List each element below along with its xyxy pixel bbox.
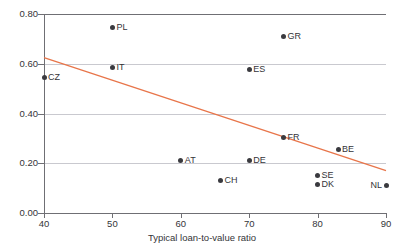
y-tick-mark xyxy=(38,64,44,65)
data-point-fr[interactable] xyxy=(281,135,286,140)
x-axis-line xyxy=(44,213,386,214)
x-tick-mark xyxy=(44,213,45,218)
x-axis-title: Typical loan-to-value ratio xyxy=(0,232,404,243)
y-axis-labels: 0.000.200.400.600.80 xyxy=(0,0,38,252)
data-point-nl[interactable] xyxy=(384,183,389,188)
y-tick-label: 0.20 xyxy=(2,158,38,168)
scatter-chart: 0.000.200.400.600.80 CZPLITESGRATDECHFRB… xyxy=(0,0,404,252)
data-point-label-es: ES xyxy=(253,65,265,74)
data-point-label-at: AT xyxy=(185,156,196,165)
data-point-dk[interactable] xyxy=(315,182,320,187)
y-tick-label: 0.60 xyxy=(2,59,38,69)
x-tick-mark xyxy=(249,213,250,218)
data-point-be[interactable] xyxy=(336,147,341,152)
data-point-label-it: IT xyxy=(116,63,124,72)
data-point-label-be: BE xyxy=(342,145,354,154)
x-tick-label: 50 xyxy=(92,218,132,229)
y-tick-label: 0.00 xyxy=(2,208,38,218)
y-tick-mark xyxy=(38,14,44,15)
y-tick-mark xyxy=(38,163,44,164)
y-tick-label: 0.80 xyxy=(2,9,38,19)
x-tick-label: 70 xyxy=(229,218,269,229)
data-point-cz[interactable] xyxy=(42,75,47,80)
gridline-080 xyxy=(44,14,386,15)
data-point-label-dk: DK xyxy=(322,180,335,189)
gridline-020 xyxy=(44,163,386,164)
gridline-040 xyxy=(44,114,386,115)
gridline-060 xyxy=(44,64,386,65)
data-point-label-pl: PL xyxy=(116,23,127,32)
x-tick-mark xyxy=(112,213,113,218)
data-point-de[interactable] xyxy=(247,158,252,163)
x-tick-label: 80 xyxy=(298,218,338,229)
x-tick-label: 40 xyxy=(24,218,64,229)
data-point-label-de: DE xyxy=(253,156,266,165)
y-axis-line xyxy=(44,14,45,214)
y-tick-label: 0.40 xyxy=(2,109,38,119)
data-point-label-cz: CZ xyxy=(48,73,60,82)
x-tick-label: 60 xyxy=(161,218,201,229)
data-point-label-nl: NL xyxy=(370,181,382,190)
x-tick-label: 90 xyxy=(366,218,404,229)
x-tick-mark xyxy=(318,213,319,218)
data-point-label-gr: GR xyxy=(287,32,301,41)
y-tick-mark xyxy=(38,114,44,115)
data-point-label-fr: FR xyxy=(287,133,299,142)
data-point-label-ch: CH xyxy=(224,176,237,185)
x-tick-mark xyxy=(181,213,182,218)
x-tick-mark xyxy=(386,213,387,218)
data-point-it[interactable] xyxy=(110,65,115,70)
plot-area xyxy=(44,14,386,213)
data-point-gr[interactable] xyxy=(281,34,286,39)
